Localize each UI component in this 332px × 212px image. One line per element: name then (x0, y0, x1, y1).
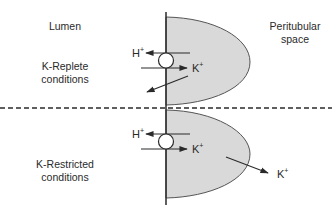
cell-lower (166, 110, 250, 198)
cell-upper (166, 17, 250, 105)
k-ion-label-peritubular: K+ (277, 167, 288, 180)
h-ion-label-upper: H+ (132, 46, 144, 59)
potassium-transport-diagram: Lumen Peritubular space K-Replete condit… (0, 0, 332, 212)
peritubular-label-line1: Peritubular (270, 20, 321, 32)
replete-label-line1: K-Replete (42, 60, 89, 72)
pump-circle-lower (159, 134, 174, 149)
restricted-label-line2: conditions (41, 171, 88, 183)
h-ion-label-lower: H+ (132, 127, 144, 140)
replete-label-line2: conditions (41, 73, 88, 85)
pump-circle-upper (159, 53, 174, 68)
restricted-label-line1: K-Restricted (36, 158, 94, 170)
peritubular-label-line2: space (281, 33, 309, 45)
lumen-label: Lumen (49, 20, 81, 32)
